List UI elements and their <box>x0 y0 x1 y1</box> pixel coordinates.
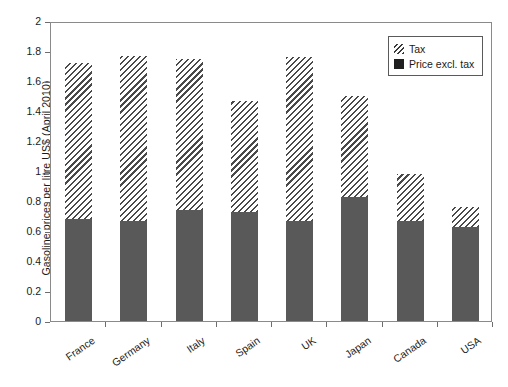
bar-segment-tax <box>231 101 258 212</box>
x-tick-mark <box>271 322 272 327</box>
bar-segment-price-excl-tax <box>65 219 92 321</box>
bar-segment-tax <box>286 57 313 221</box>
x-tick-mark <box>492 322 493 327</box>
x-label-france: France <box>45 334 96 375</box>
bar-japan <box>341 21 368 321</box>
hatched-swatch-icon <box>394 44 404 54</box>
bar-segment-tax <box>65 63 92 219</box>
x-tick-mark <box>382 322 383 327</box>
y-tick-label: 0.6 <box>26 225 41 237</box>
bar-segment-price-excl-tax <box>286 221 313 322</box>
bar-segment-price-excl-tax <box>341 197 368 322</box>
x-tick-mark <box>105 322 106 327</box>
y-tick-label: 1.8 <box>26 45 41 57</box>
bar-segment-tax <box>341 96 368 197</box>
bar-segment-tax <box>120 56 147 221</box>
bar-italy <box>176 21 203 321</box>
gasoline-prices-bar-chart: Gasoline prices per litre US$ (April 201… <box>0 0 508 387</box>
legend-item-tax: Tax <box>394 41 477 56</box>
bar-segment-tax <box>176 59 203 211</box>
y-tick-label: 0.8 <box>26 195 41 207</box>
y-tick-label: 2 <box>35 15 41 27</box>
x-tick-mark <box>437 322 438 327</box>
x-label-usa: USA <box>432 334 483 375</box>
x-tick-mark <box>161 322 162 327</box>
y-tick-label: 0.4 <box>26 255 41 267</box>
x-tick-mark <box>216 322 217 327</box>
bar-segment-price-excl-tax <box>231 212 258 322</box>
x-label-canada: Canada <box>377 334 428 375</box>
y-tick-label: 1.2 <box>26 135 41 147</box>
bar-segment-tax <box>452 207 479 227</box>
x-label-spain: Spain <box>211 334 262 375</box>
y-tick-label: 1 <box>35 165 41 177</box>
y-tick-mark <box>45 322 50 323</box>
x-label-uk: UK <box>266 334 317 375</box>
legend-label-tax: Tax <box>409 43 425 55</box>
bar-france <box>65 21 92 321</box>
y-tick-label: 1.4 <box>26 105 41 117</box>
legend-item-price-excl-tax: Price excl. tax <box>394 56 477 71</box>
x-tick-mark <box>326 322 327 327</box>
bar-uk <box>286 21 313 321</box>
bar-spain <box>231 21 258 321</box>
bar-segment-price-excl-tax <box>176 210 203 321</box>
x-label-italy: Italy <box>156 334 207 375</box>
y-tick-label: 1.6 <box>26 75 41 87</box>
solid-swatch-icon <box>394 59 404 69</box>
y-tick-label: 0 <box>35 315 41 327</box>
chart-legend: Tax Price excl. tax <box>388 36 483 76</box>
y-tick-label: 0.2 <box>26 285 41 297</box>
legend-label-price-excl-tax: Price excl. tax <box>409 58 474 70</box>
bar-segment-price-excl-tax <box>120 221 147 322</box>
bar-germany <box>120 21 147 321</box>
bar-segment-tax <box>397 174 424 221</box>
x-label-germany: Germany <box>101 334 152 375</box>
bar-segment-price-excl-tax <box>397 221 424 322</box>
bar-segment-price-excl-tax <box>452 227 479 322</box>
x-label-japan: Japan <box>322 334 373 375</box>
